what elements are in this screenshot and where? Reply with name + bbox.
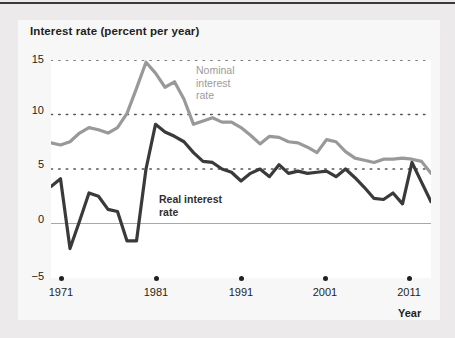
- y-tick-label-minus5: −5: [2, 270, 44, 282]
- x-tick-dot-2011: [407, 276, 412, 281]
- y-tick-label-10: 10: [2, 104, 44, 116]
- x-axis-title: Year: [398, 307, 421, 319]
- series-line-real: [51, 124, 431, 248]
- y-tick-label-5: 5: [2, 158, 44, 170]
- figure-root: Interest rate (percent per year) 15 10 5…: [0, 0, 455, 338]
- series-label-nominal-line3: rate: [196, 89, 235, 102]
- series-label-nominal-line1: Nominal: [196, 64, 235, 77]
- x-tick-label-1971: 1971: [38, 286, 84, 298]
- chart-title: Interest rate (percent per year): [30, 25, 199, 37]
- x-tick-dot-2001: [323, 276, 328, 281]
- y-tick-label-0: 0: [2, 213, 44, 225]
- series-label-nominal: Nominal interest rate: [196, 64, 235, 102]
- x-tick-label-2001: 2001: [302, 286, 348, 298]
- x-tick-dot-1981: [154, 276, 159, 281]
- chart-canvas: [51, 60, 431, 278]
- gridlines-group: [51, 60, 431, 169]
- series-label-real-line2: rate: [159, 206, 222, 219]
- x-tick-dot-1991: [239, 276, 244, 281]
- top-divider-rule: [0, 2, 455, 4]
- series-label-real: Real interest rate: [159, 193, 222, 218]
- y-tick-label-15: 15: [2, 53, 44, 65]
- series-label-real-line1: Real interest: [159, 193, 222, 206]
- x-tick-label-1991: 1991: [218, 286, 264, 298]
- x-tick-dot-1971: [59, 276, 64, 281]
- x-tick-label-2011: 2011: [386, 286, 432, 298]
- series-line-nominal: [51, 62, 431, 173]
- x-tick-label-1981: 1981: [133, 286, 179, 298]
- plot-area: [51, 60, 431, 278]
- series-label-nominal-line2: interest: [196, 77, 235, 90]
